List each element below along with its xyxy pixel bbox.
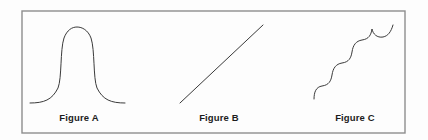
figure-c-caption: Figure C [322,113,388,123]
figure-b-caption: Figure B [186,113,252,123]
figure-b-line [180,25,263,103]
figure-c-curve [314,25,393,99]
figure-a-curve [30,27,125,103]
figure-a-caption: Figure A [46,113,112,123]
figure-panel: Figure A Figure B Figure C [0,0,428,140]
